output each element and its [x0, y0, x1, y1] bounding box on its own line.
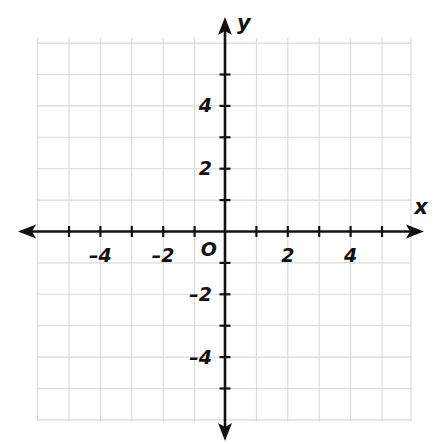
x-tick-label-neg4: –4 [89, 244, 112, 266]
y-tick-label-neg4: –4 [189, 346, 212, 368]
x-tick-label-neg2: –2 [152, 244, 175, 266]
coordinate-plane: –4 –2 2 4 x 4 2 [0, 0, 442, 444]
origin-label: O [201, 238, 217, 260]
plot-background [0, 0, 442, 444]
x-tick-label-4: 4 [343, 244, 357, 266]
coordinate-plane-svg: –4 –2 2 4 x 4 2 [0, 0, 442, 444]
y-axis-label: y [237, 11, 252, 35]
y-tick-label-neg2: –2 [189, 283, 212, 305]
y-tick-label-4: 4 [198, 94, 212, 116]
y-tick-label-2: 2 [199, 157, 212, 179]
x-axis-label: x [413, 195, 429, 219]
x-tick-label-2: 2 [281, 244, 294, 266]
